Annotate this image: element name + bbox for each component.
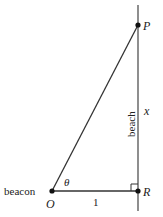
label-x: x [143,104,150,118]
label-theta: θ [64,176,70,188]
label-r: R [142,185,151,199]
segment-op [52,25,138,191]
label-p: P [142,19,151,33]
point-o [49,188,54,193]
label-beach: beach [125,111,137,137]
triangle-diagram: P R O beacon θ 1 x beach [0,0,163,217]
label-o: O [46,197,55,211]
label-one: 1 [93,196,99,208]
label-beacon: beacon [4,185,36,197]
point-p [135,22,140,27]
point-r [135,188,140,193]
